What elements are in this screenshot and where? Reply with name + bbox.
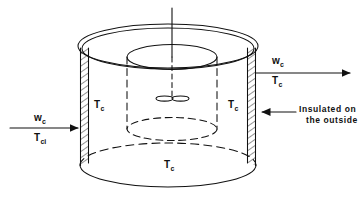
insulated-wall-left-fill <box>81 48 89 165</box>
tank-schematic-drawing <box>0 0 361 203</box>
bottom-temp-label: Tc <box>164 160 174 172</box>
tank-top-rim-inner <box>82 28 254 69</box>
draft-tube-bottom-ellipse <box>127 118 217 141</box>
insulation-note-line-2: the outside <box>299 115 358 126</box>
insulation-note: Insulated on the outside <box>299 104 358 127</box>
outlet-temp-label: Tc <box>272 76 282 88</box>
insulated-wall-right-fill <box>248 48 256 165</box>
insulation-note-line-1: Insulated on <box>299 104 358 115</box>
wall-left-temp-label: Tc <box>94 100 104 112</box>
tank-top-rim-outer <box>78 24 258 68</box>
stirred-tank-diagram: wc Tci wc Tc Tc Tc Tc Insulated on the o… <box>0 0 361 203</box>
outlet-flow-label: wc <box>272 56 284 68</box>
impeller-blade-right <box>172 96 189 101</box>
impeller-blade-left <box>156 96 173 101</box>
wall-right-temp-label: Tc <box>228 100 238 112</box>
inlet-flow-label: wc <box>34 113 46 125</box>
inlet-temp-label: Tci <box>34 133 46 145</box>
